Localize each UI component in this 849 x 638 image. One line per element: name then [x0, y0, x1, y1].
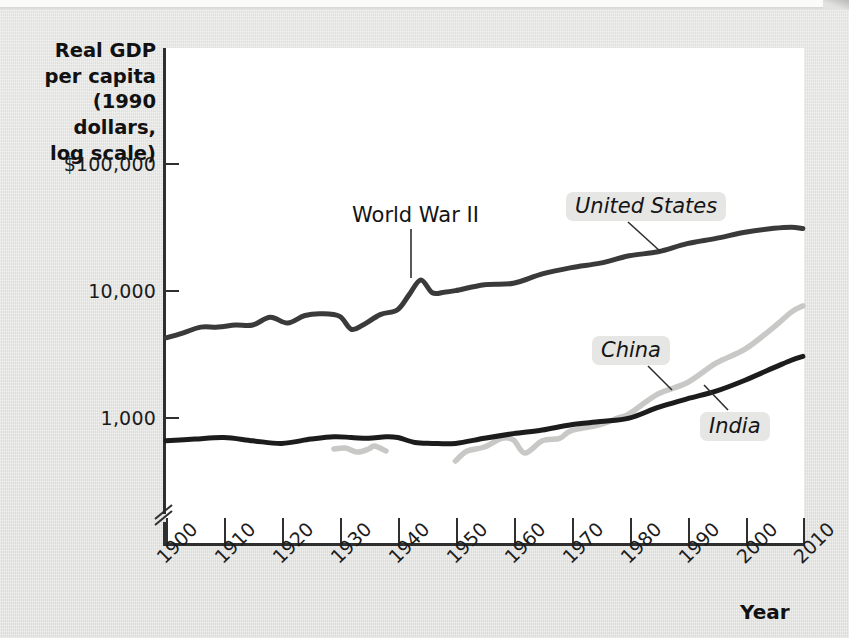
annotation-world-war-ii: World War II — [352, 203, 479, 227]
series-line-united-states — [166, 227, 803, 338]
series-label-india: India — [700, 412, 770, 441]
series-label-united-states: United States — [566, 192, 726, 221]
series-label-china: China — [592, 336, 670, 365]
series-lines — [0, 0, 849, 638]
figure-container: Real GDP per capita (1990 dollars, log s… — [0, 0, 849, 638]
series-line-china-0 — [334, 446, 386, 452]
